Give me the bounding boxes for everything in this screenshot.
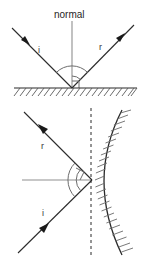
reflected-label-top: r [99,42,102,52]
reflected-ray-arrow-icon-bottom [38,124,48,134]
reflected-ray-top [72,25,134,88]
reflection-diagram-svg: normal i r [0,0,145,260]
incident-ray-top [12,28,72,88]
reflected-ray-arrow-icon-top [116,33,125,42]
curved-mirror-hatching [95,110,133,252]
reflection-figure: normal i r [0,0,145,260]
incident-ray-bottom [18,180,92,253]
incident-label-bottom: i [42,208,44,218]
angle-arc-inner-top [72,76,81,80]
reflected-ray-bottom [24,112,92,180]
normal-label-top: normal [54,9,85,20]
mirror-surface-hatching-top [14,88,137,96]
top-plane-mirror-diagram: normal i r [12,9,137,96]
bottom-curved-mirror-diagram: r i [18,108,133,256]
curved-mirror-surface [104,110,122,255]
incident-label-top: i [38,45,40,55]
incident-ray-arrow-icon-top [21,36,30,45]
reflected-label-bottom: r [41,141,44,151]
